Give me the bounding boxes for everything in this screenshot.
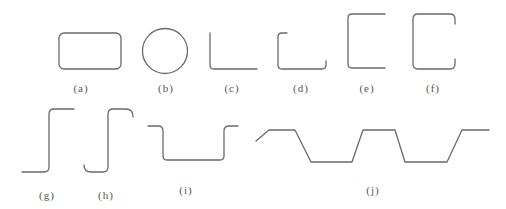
shape-e-c-channel: [348, 14, 385, 68]
shape-g-z-section: [22, 109, 74, 172]
shape-f-lipped-c-channel: [413, 14, 455, 69]
shape-c-l-angle: [210, 33, 257, 69]
profile-shapes-diagram: [0, 0, 506, 209]
shape-j-trapezoidal-profile: [256, 130, 489, 162]
label-a: (a): [73, 82, 88, 94]
shape-d-lipped-channel: [278, 33, 326, 69]
label-f: (f): [426, 82, 440, 94]
label-i: (i): [179, 184, 192, 196]
shape-a-rounded-rectangle: [59, 33, 121, 69]
label-c: (c): [224, 82, 239, 94]
label-h: (h): [98, 189, 114, 201]
shape-b-circle: [143, 29, 188, 74]
label-e: (e): [359, 82, 374, 94]
label-b: (b): [158, 82, 174, 94]
label-j: (j): [366, 184, 379, 196]
label-d: (d): [293, 82, 309, 94]
label-g: (g): [39, 189, 55, 201]
shape-h-lipped-z-section: [84, 109, 133, 172]
shape-i-hat-section: [148, 126, 238, 160]
